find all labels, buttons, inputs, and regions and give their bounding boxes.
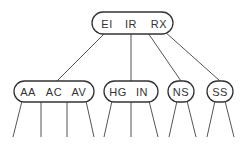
child-2-key-2: IN	[136, 86, 148, 98]
edge-child-4-ptr-0	[207, 101, 215, 137]
edge-root-to-child-1	[57, 34, 104, 81]
child-node-4: SS	[207, 81, 233, 102]
child-node-1: AA AC AV	[14, 81, 94, 102]
leaf-edges	[13, 101, 234, 137]
child-1-key-3: AV	[72, 86, 87, 98]
child-2-key-1: HG	[109, 86, 127, 98]
child-3-key-1: NS	[173, 86, 189, 98]
b-tree-diagram: EI IR RX AA AC AV HG IN NS SS	[0, 0, 247, 144]
edge-child-1-ptr-0	[13, 101, 22, 137]
edge-child-1-ptr-3	[86, 101, 94, 137]
root-key-2: IR	[125, 18, 137, 30]
child-1-key-1: AA	[20, 86, 36, 98]
root-edges	[57, 31, 220, 81]
root-key-1: EI	[101, 18, 112, 30]
edge-child-3-ptr-1	[187, 101, 196, 137]
edge-root-to-child-3	[148, 33, 181, 81]
child-node-3: NS	[168, 81, 194, 102]
edge-child-3-ptr-0	[169, 101, 177, 137]
root-key-3: RX	[151, 18, 167, 30]
edge-child-2-ptr-0	[104, 101, 112, 137]
edge-child-2-ptr-2	[149, 101, 158, 137]
edge-child-4-ptr-1	[225, 101, 234, 137]
child-node-2: HG IN	[104, 81, 158, 102]
root-node: EI IR RX	[92, 12, 173, 34]
child-4-key-1: SS	[212, 86, 228, 98]
edge-root-to-child-4	[164, 31, 220, 81]
child-1-key-2: AC	[46, 86, 62, 98]
